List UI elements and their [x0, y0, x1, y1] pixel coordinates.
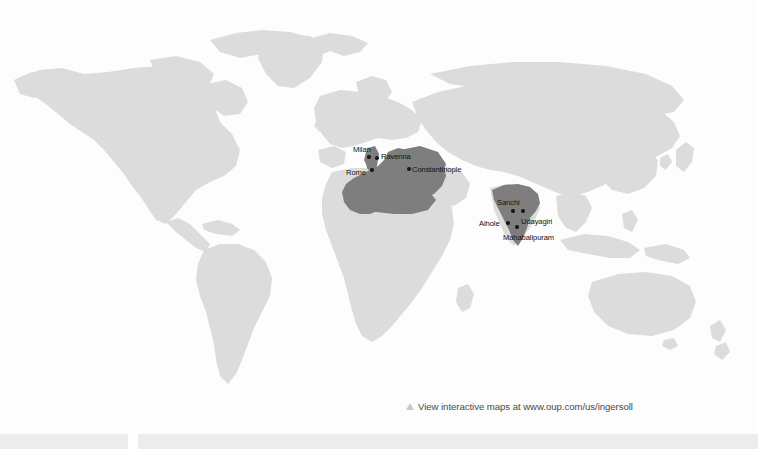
city-marker-sanchi[interactable] — [511, 209, 514, 212]
city-label-milan: Milan — [353, 145, 371, 154]
south-america-land — [196, 244, 272, 384]
city-label-constantinople: Constantinople — [412, 165, 461, 174]
caption-text: View interactive maps at www.oup.com/us/… — [418, 401, 633, 412]
world-map-svg[interactable] — [0, 0, 758, 430]
indonesia-land — [560, 234, 640, 258]
city-label-mahabalipuram: Mahabalipuram — [503, 233, 554, 242]
new-guinea-land — [644, 244, 690, 264]
world-map-figure[interactable]: Milan Ravenna Rome Constantinople Sanchi… — [0, 0, 758, 430]
madagascar-land — [456, 284, 474, 312]
bottom-band-left — [0, 434, 128, 449]
central-america-land — [166, 218, 210, 252]
city-marker-mahabalipuram[interactable] — [515, 225, 518, 228]
city-label-aihole: Aihole — [479, 219, 500, 228]
southeast-asia-land — [556, 192, 592, 232]
bottom-band-gap — [128, 434, 138, 449]
bottom-band-right — [138, 434, 758, 449]
tasmania-land — [662, 338, 678, 350]
japan-land — [676, 142, 694, 172]
city-label-sanchi: Sanchi — [497, 198, 520, 207]
city-label-udayagiri: Udayagiri — [521, 217, 552, 226]
city-marker-rome[interactable] — [370, 168, 373, 171]
caribbean-islands-land — [202, 220, 240, 236]
city-label-ravenna: Ravenna — [381, 152, 411, 161]
iberia-land — [318, 146, 346, 168]
australia-land — [588, 272, 696, 336]
city-label-rome: Rome — [346, 168, 366, 177]
city-marker-udayagiri[interactable] — [521, 209, 524, 212]
triangle-up-icon — [406, 403, 414, 410]
city-marker-aihole[interactable] — [506, 221, 509, 224]
city-marker-ravenna[interactable] — [375, 156, 378, 159]
korea-land — [660, 154, 672, 170]
greenland-land — [258, 34, 324, 88]
philippines-land — [622, 210, 638, 232]
interactive-maps-caption[interactable]: View interactive maps at www.oup.com/us/… — [406, 401, 633, 412]
city-marker-constantinople[interactable] — [407, 167, 410, 170]
map-page: Milan Ravenna Rome Constantinople Sanchi… — [0, 0, 758, 449]
new-zealand-land — [710, 320, 730, 360]
city-marker-milan[interactable] — [367, 155, 370, 158]
